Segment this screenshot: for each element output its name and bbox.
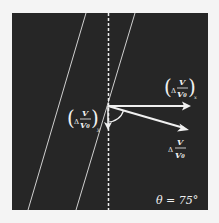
svg-text:V₀: V₀ [175, 150, 185, 160]
svg-text:V: V [177, 137, 184, 147]
angle-label: θ = 75° [156, 194, 198, 207]
svg-text:y: y [96, 126, 100, 133]
dark-panel [12, 13, 208, 210]
svg-text:Δ: Δ [171, 87, 176, 95]
svg-text:x: x [194, 94, 197, 100]
diagram-canvas: ( Δ V V₀ ) x ( Δ V V₀ ) y Δ V V₀ θ = 75° [0, 0, 219, 223]
label-y-component: ( Δ V V₀ ) y [67, 106, 100, 133]
svg-text:V: V [82, 108, 89, 118]
svg-text:V₀: V₀ [80, 120, 90, 130]
svg-text:Δ: Δ [74, 118, 79, 126]
svg-text:V: V [179, 77, 186, 87]
svg-text:Δ: Δ [168, 146, 173, 154]
svg-text:V₀: V₀ [177, 89, 187, 99]
